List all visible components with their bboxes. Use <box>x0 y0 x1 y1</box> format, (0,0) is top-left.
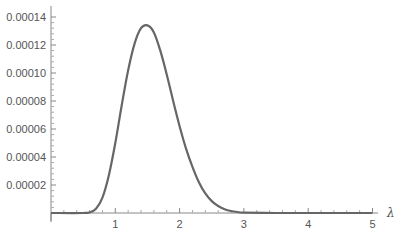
x-tick-label: 1 <box>112 218 118 230</box>
y-tick-label: 0.00014 <box>6 11 46 23</box>
y-tick-label: 0.00012 <box>6 39 46 51</box>
y-tick-label: 0.00004 <box>6 151 46 163</box>
y-tick-label: 0.00010 <box>6 67 46 79</box>
x-tick-label: 5 <box>369 218 375 230</box>
y-axis: 0.000020.000040.000060.000080.000100.000… <box>6 6 56 222</box>
y-tick-label: 0.00006 <box>6 123 46 135</box>
x-tick-label: 2 <box>177 218 183 230</box>
x-tick-label: 3 <box>241 218 247 230</box>
y-tick-label: 0.00008 <box>6 95 46 107</box>
chart: 0.000020.000040.000060.000080.000100.000… <box>0 0 402 237</box>
y-tick-label: 0.00002 <box>6 179 46 191</box>
y-ticks: 0.000020.000040.000060.000080.000100.000… <box>6 11 56 221</box>
data-line <box>51 25 373 213</box>
x-axis-label: λ <box>386 206 395 220</box>
x-tick-label: 4 <box>305 218 311 230</box>
x-ticks: 12345 <box>64 208 376 230</box>
